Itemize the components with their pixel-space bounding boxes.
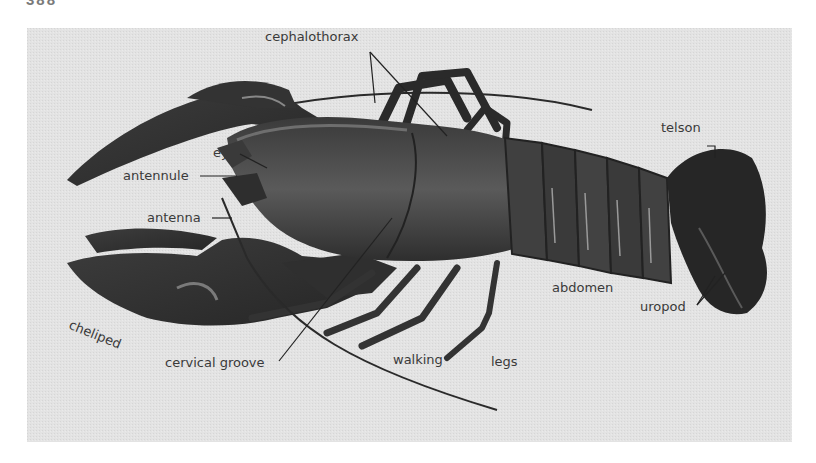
label-telson: telson	[661, 121, 701, 134]
crayfish-figure: cephalothorax telson eye antennule anten…	[27, 28, 792, 442]
label-eye: eye	[213, 146, 237, 159]
label-uropod: uropod	[640, 300, 686, 313]
page-number: 388	[26, 0, 57, 8]
label-cephalothorax: cephalothorax	[265, 30, 358, 43]
label-cervical-groove: cervical groove	[165, 356, 265, 369]
crayfish-illustration	[27, 28, 792, 442]
label-abdomen: abdomen	[552, 281, 613, 294]
label-walking: walking	[393, 353, 443, 366]
label-antenna: antenna	[147, 211, 201, 224]
label-legs: legs	[491, 355, 518, 368]
label-antennule: antennule	[123, 169, 189, 182]
